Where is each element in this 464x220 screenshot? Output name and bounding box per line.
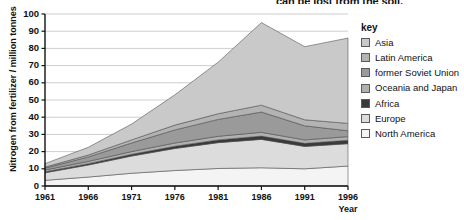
y-axis-ticks: 0102030405060708090100 — [23, 8, 45, 191]
legend-item-label: North America — [375, 129, 435, 139]
legend-item: North America — [357, 126, 464, 141]
legend-item: Europe — [357, 111, 464, 126]
legend-item-label: Africa — [375, 99, 399, 109]
svg-text:90: 90 — [28, 25, 39, 36]
svg-text:1966: 1966 — [78, 192, 98, 202]
svg-text:40: 40 — [28, 111, 39, 122]
legend-item: Oceania and Japan — [357, 81, 464, 96]
legend-item: former Soviet Union — [357, 65, 464, 80]
legend-swatch-icon — [361, 68, 370, 77]
legend-swatch-icon — [361, 84, 370, 93]
legend-item: Asia — [357, 35, 464, 50]
legend-item: Latin America — [357, 50, 464, 65]
svg-text:10: 10 — [28, 162, 39, 173]
svg-text:60: 60 — [28, 76, 39, 87]
legend-swatch-icon — [361, 99, 370, 108]
legend-item: Africa — [357, 96, 464, 111]
legend-item-label: Asia — [375, 38, 393, 48]
legend-swatch-icon — [361, 129, 370, 138]
svg-text:70: 70 — [28, 59, 39, 70]
svg-text:1961: 1961 — [35, 192, 55, 202]
x-axis-ticks: 19611966197119761981198619911996 — [35, 186, 358, 202]
legend: key AsiaLatin Americaformer Soviet Union… — [357, 22, 464, 141]
legend-rows: AsiaLatin Americaformer Soviet UnionOcea… — [357, 35, 464, 141]
legend-swatch-icon — [361, 38, 370, 47]
svg-text:100: 100 — [23, 8, 39, 19]
svg-text:1976: 1976 — [165, 192, 185, 202]
svg-text:1971: 1971 — [122, 192, 142, 202]
svg-text:1986: 1986 — [251, 192, 271, 202]
legend-swatch-icon — [361, 53, 370, 62]
legend-item-label: Europe — [375, 114, 406, 124]
svg-text:1996: 1996 — [338, 192, 358, 202]
svg-text:80: 80 — [28, 42, 39, 53]
svg-text:30: 30 — [28, 128, 39, 139]
legend-item-label: former Soviet Union — [375, 68, 459, 78]
legend-item-label: Oceania and Japan — [375, 83, 457, 93]
svg-text:1991: 1991 — [295, 192, 315, 202]
svg-text:1981: 1981 — [208, 192, 228, 202]
legend-item-label: Latin America — [375, 53, 433, 63]
svg-text:0: 0 — [34, 180, 39, 191]
legend-title: key — [361, 22, 464, 33]
legend-swatch-icon — [361, 114, 370, 123]
x-axis-title: Year — [338, 204, 358, 214]
chart-figure: can be lost from the soil, Nitrogen from… — [0, 0, 464, 220]
svg-text:50: 50 — [28, 94, 39, 105]
svg-text:20: 20 — [28, 145, 39, 156]
